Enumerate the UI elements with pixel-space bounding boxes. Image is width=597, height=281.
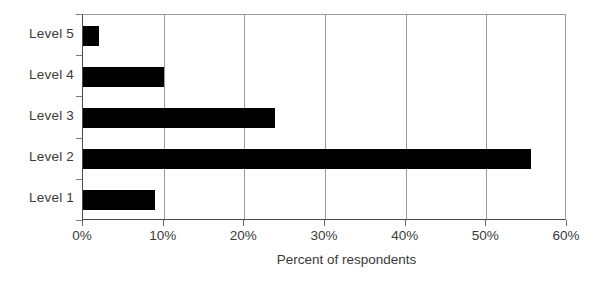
- x-tick-label-30: 30%: [310, 228, 337, 243]
- x-tick-label-40: 40%: [391, 228, 418, 243]
- bar-level-5: [83, 26, 99, 46]
- y-tick-label-level-3: Level 3: [0, 108, 74, 123]
- x-tick: [82, 220, 83, 226]
- bar-row: [83, 180, 565, 221]
- bar-row: [83, 15, 565, 56]
- y-tick-label-level-2: Level 2: [0, 149, 74, 164]
- bar-level-3: [83, 108, 275, 128]
- x-tick: [566, 220, 567, 226]
- x-tick: [485, 220, 486, 226]
- bar-row: [83, 97, 565, 138]
- x-tick-label-50: 50%: [472, 228, 499, 243]
- bar-chart: Level 1Level 2Level 3Level 4Level 5 0%10…: [0, 0, 597, 281]
- bar-row: [83, 56, 565, 97]
- x-tick-label-60: 60%: [552, 228, 579, 243]
- x-tick: [324, 220, 325, 226]
- y-tick-label-level-1: Level 1: [0, 190, 74, 205]
- x-tick: [243, 220, 244, 226]
- x-tick: [405, 220, 406, 226]
- y-tick-label-level-5: Level 5: [0, 26, 74, 41]
- x-axis-title: Percent of respondents: [0, 252, 597, 267]
- y-tick-label-level-4: Level 4: [0, 67, 74, 82]
- x-axis-title-text: Percent of respondents: [277, 252, 417, 267]
- bar-level-2: [83, 149, 531, 169]
- x-tick-label-20: 20%: [230, 228, 257, 243]
- bar-level-1: [83, 190, 155, 210]
- x-tick: [163, 220, 164, 226]
- x-tick-label-0: 0%: [72, 228, 92, 243]
- bar-level-4: [83, 67, 164, 87]
- x-tick-label-10: 10%: [149, 228, 176, 243]
- plot-area: [82, 14, 566, 220]
- bar-row: [83, 139, 565, 180]
